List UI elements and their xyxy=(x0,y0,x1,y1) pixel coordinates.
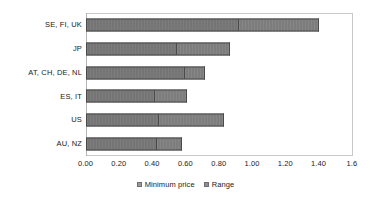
legend-item-minimum-price[interactable]: Minimum price xyxy=(137,180,195,189)
x-tick-label-5: 1.00 xyxy=(245,158,260,170)
bar-0 xyxy=(86,18,319,31)
x-tick-label-0: 0.00 xyxy=(78,158,93,170)
bar-segment-range-2 xyxy=(185,66,205,79)
bar-segment-minimum-price-1 xyxy=(86,42,178,55)
x-tick-label-6: 1.20 xyxy=(278,158,293,170)
category-label-1: JP xyxy=(0,45,82,53)
x-axis: 0.00 0.20 0.40 0.60 0.80 1.00 1.20 1.40 … xyxy=(0,158,371,170)
legend-swatch-icon xyxy=(204,182,209,187)
legend-label-minimum-price: Minimum price xyxy=(145,180,195,189)
category-label-4: US xyxy=(0,116,82,124)
bar-segment-minimum-price-5 xyxy=(86,138,158,151)
chart-container: SE, FI, UK JP AT, CH, DE, NL ES, IT xyxy=(0,0,371,199)
bar-segment-range-1 xyxy=(177,42,230,55)
legend-item-range[interactable]: Range xyxy=(204,180,235,189)
chart-legend: Minimum price Range xyxy=(0,180,371,189)
x-tick-label-8: 1.6 xyxy=(347,158,358,170)
category-label-5: AU, NZ xyxy=(0,140,82,148)
table-row: JP xyxy=(0,37,371,61)
x-tick-label-3: 0.60 xyxy=(178,158,193,170)
table-row: SE, FI, UK xyxy=(0,13,371,37)
x-tick-label-2: 0.40 xyxy=(145,158,160,170)
x-tick-label-1: 0.20 xyxy=(111,158,126,170)
legend-swatch-icon xyxy=(137,182,142,187)
bar-segment-minimum-price-2 xyxy=(86,66,186,79)
table-row: AU, NZ xyxy=(0,132,371,156)
bar-segment-range-0 xyxy=(239,18,319,31)
category-label-3: ES, IT xyxy=(0,93,82,101)
table-row: ES, IT xyxy=(0,85,371,109)
bar-segment-minimum-price-4 xyxy=(86,114,159,127)
bar-4 xyxy=(86,114,224,127)
bar-segment-range-4 xyxy=(159,114,224,127)
table-row: AT, CH, DE, NL xyxy=(0,61,371,85)
bar-segment-minimum-price-3 xyxy=(86,90,156,103)
bar-rows: SE, FI, UK JP AT, CH, DE, NL ES, IT xyxy=(0,13,371,156)
bar-3 xyxy=(86,90,187,103)
bar-5 xyxy=(86,138,183,151)
bar-1 xyxy=(86,42,231,55)
bar-segment-minimum-price-0 xyxy=(86,18,239,31)
category-label-2: AT, CH, DE, NL xyxy=(0,69,82,77)
bar-2 xyxy=(86,66,206,79)
legend-label-range: Range xyxy=(212,180,235,189)
bar-segment-range-3 xyxy=(155,90,187,103)
x-tick-label-4: 0.80 xyxy=(211,158,226,170)
category-label-0: SE, FI, UK xyxy=(0,21,82,29)
x-tick-label-7: 1.40 xyxy=(311,158,326,170)
table-row: US xyxy=(0,108,371,132)
bar-segment-range-5 xyxy=(157,138,182,151)
